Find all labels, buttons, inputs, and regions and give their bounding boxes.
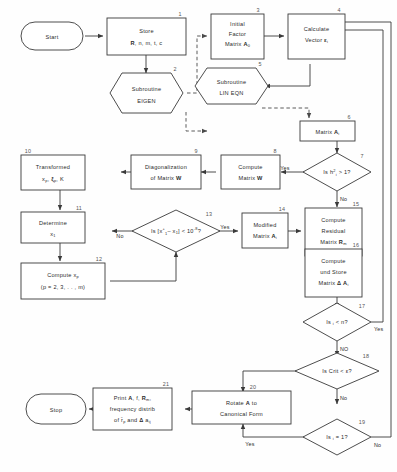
node-21-line-1: frequency distrib xyxy=(110,406,155,412)
node-10-shape xyxy=(21,155,85,190)
node-12-shape xyxy=(21,263,105,299)
node-2-number: 2 xyxy=(173,66,176,72)
node-9-line-1: of Matrix W xyxy=(150,175,182,181)
edge-label-13-yes: Yes xyxy=(220,224,229,230)
node-15-line-0: Compute xyxy=(321,217,345,223)
node-8-line-1: Matrix W xyxy=(238,175,263,181)
flowchart-svg: Start 1 Store R, n, m, t, c 2 Subroutine… xyxy=(0,0,397,472)
node-14-line-0: Modified xyxy=(253,222,276,228)
node-16-line-0: Compute xyxy=(321,258,345,264)
node-8-shape xyxy=(221,155,280,189)
node-18-label: Is Crit < ε? xyxy=(322,368,352,374)
node-8-number: 8 xyxy=(273,148,276,154)
node-9-number: 9 xyxy=(194,148,197,154)
node-12-line-1: (p = 2, 3, . . , m) xyxy=(41,284,85,290)
node-3-initial-factor-matrix[interactable]: 3 Initial Factor Matrix A0 xyxy=(211,7,264,60)
edge-4-to-5 xyxy=(265,64,310,86)
edge-label-17-yes: Yes xyxy=(374,326,383,332)
node-10-transformed[interactable]: 10 Transformed xp, ξp, K xyxy=(21,148,85,191)
node-9-diagonalization[interactable]: 9 Diagonalization of Matrix W xyxy=(131,148,201,190)
flowchart-canvas: Start 1 Store R, n, m, t, c 2 Subroutine… xyxy=(0,0,397,472)
node-20-shape xyxy=(192,391,291,424)
node-3-line-0: Initial xyxy=(230,21,245,27)
node-5-line-0: Subroutine xyxy=(217,79,247,85)
edge-5-to-6 xyxy=(262,108,309,118)
node-20-line-0: Rotate A to xyxy=(226,400,257,406)
node-15-line-1: Residual xyxy=(322,228,346,234)
node-4-number: 4 xyxy=(337,7,340,13)
edge-label-19-no: No xyxy=(374,442,381,448)
node-8-line-0: Compute xyxy=(238,164,262,170)
node-7-number: 7 xyxy=(360,153,363,159)
start-label: Start xyxy=(45,34,58,40)
node-16-number: 16 xyxy=(353,242,359,248)
node-19-decision-i-eq-1[interactable]: 19 Is i = 1? xyxy=(303,419,371,456)
node-17-number: 17 xyxy=(359,303,365,309)
node-11-determine-x1[interactable]: 11 Determine x1 xyxy=(21,205,85,244)
node-14-modified-matrix[interactable]: 14 Modified Matrix Ai xyxy=(242,206,288,249)
edge-label-13-no: No xyxy=(116,233,123,239)
node-19-number: 19 xyxy=(359,419,365,425)
node-7-decision-h-squared[interactable]: 7 Is h2i > 1? xyxy=(303,153,371,192)
node-16-line-1: und Store xyxy=(320,269,347,275)
node-1-number: 1 xyxy=(178,11,181,17)
node-18-decision-crit[interactable]: 18 Is Crit < ε? xyxy=(295,353,379,390)
node-8-compute-matrix-w[interactable]: 8 Compute Matrix W xyxy=(221,148,280,190)
node-9-line-0: Diagonalization xyxy=(145,164,187,170)
node-3-line-1: Factor xyxy=(229,31,246,37)
node-4-calculate-vector[interactable]: 4 Calculate Vector εi xyxy=(288,7,345,60)
node-5-number: 5 xyxy=(258,61,261,67)
node-12-number: 12 xyxy=(96,256,102,262)
node-14-shape xyxy=(242,213,288,248)
edge-12-to-13 xyxy=(110,252,176,281)
node-2-shape xyxy=(110,73,183,113)
node-20-line-1: Canonical Form xyxy=(220,411,263,417)
node-1-line-0: Store xyxy=(139,28,154,34)
node-2-subroutine-eigen[interactable]: 2 Subroutine EIGEN xyxy=(110,66,183,114)
edge-2-to-9 xyxy=(186,112,207,131)
node-13-number: 13 xyxy=(206,211,212,217)
node-21-print[interactable]: 21 Print A, f, Rm, frequency distrib of … xyxy=(93,381,172,431)
node-14-number: 14 xyxy=(279,206,285,212)
node-5-subroutine-lin-eqn[interactable]: 5 Subroutine LIN EQN xyxy=(195,61,268,105)
stop-label: Stop xyxy=(50,407,63,413)
node-13-decision-convergence[interactable]: 13 Is [x+1– x1] < 10-8? xyxy=(132,210,220,252)
node-15-compute-residual[interactable]: 15 Compute Residual Matrix Rm xyxy=(305,201,362,257)
node-10-line-0: Transformed xyxy=(36,164,70,170)
edge-label-7-no: No xyxy=(340,196,347,202)
node-9-shape xyxy=(131,155,201,189)
node-2-line-0: Subroutine xyxy=(132,86,162,92)
node-1-store[interactable]: 1 Store R, n, m, t, c xyxy=(107,11,186,56)
node-17-decision-i-lt-n[interactable]: 17 Is i < n? xyxy=(303,303,371,342)
node-20-rotate-a[interactable]: 20 Rotate A to Canonical Form xyxy=(192,384,291,425)
node-5-shape xyxy=(195,68,268,104)
node-3-number: 3 xyxy=(256,7,259,13)
node-2-line-1: EIGEN xyxy=(137,98,156,104)
node-6-matrix-a[interactable]: 6 Matrix Ai xyxy=(300,114,355,142)
node-stop[interactable]: Stop xyxy=(26,394,86,424)
node-1-shape xyxy=(107,18,186,55)
node-4-line-0: Calculate xyxy=(304,26,330,32)
node-1-line-1: R, n, m, t, c xyxy=(131,40,163,46)
node-15-number: 15 xyxy=(353,201,359,207)
node-10-number: 10 xyxy=(25,148,31,154)
edge-label-7-yes: Yes xyxy=(280,165,289,171)
node-16-compute-store-delta[interactable]: 16 Compute und Store Matrix Δ Ai xyxy=(305,242,362,298)
node-11-line-0: Determine xyxy=(39,220,67,226)
edge-label-17-no: NO xyxy=(340,346,349,352)
edge-19-to-20 xyxy=(243,424,305,437)
node-6-number: 6 xyxy=(347,114,350,120)
node-20-number: 20 xyxy=(250,384,256,390)
node-11-number: 11 xyxy=(76,205,82,211)
node-5-line-1: LIN EQN xyxy=(219,90,243,96)
node-18-number: 18 xyxy=(363,353,369,359)
node-12-compute-xp[interactable]: 12 Compute xp (p = 2, 3, . . , m) xyxy=(21,256,105,300)
node-21-number: 21 xyxy=(163,381,169,387)
edge-label-18-no: No xyxy=(340,395,347,401)
edge-label-19-yes: Yes xyxy=(245,441,254,447)
node-start[interactable]: Start xyxy=(21,22,83,50)
